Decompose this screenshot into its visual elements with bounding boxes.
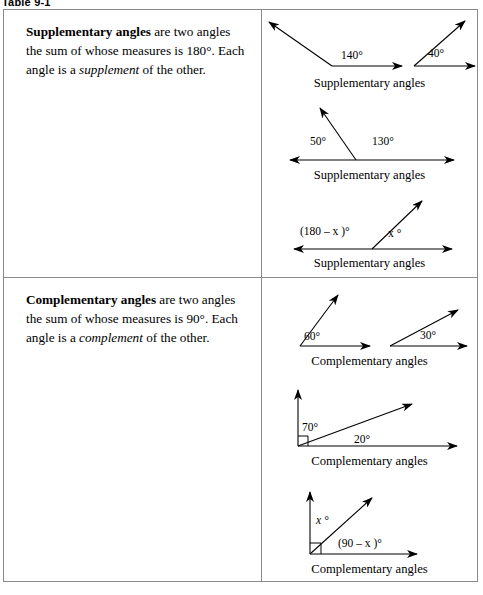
diagram-60-30: 60° 30° xyxy=(262,288,479,354)
caption-supplementary-1: Supplementary angles xyxy=(262,76,477,90)
label-130: 130° xyxy=(372,135,394,147)
figure-complementary-60-30: 60° 30° Complementary angles xyxy=(262,288,477,368)
label-90-minus-x: (90 – x )° xyxy=(338,537,382,550)
complementary-description-text: Complementary angles are two angles the … xyxy=(26,290,245,347)
angles-table: Supplementary angles are two angles the … xyxy=(3,9,478,582)
complementary-emph: complement xyxy=(79,330,143,345)
complementary-tail: of the other. xyxy=(143,330,210,345)
label-140: 140° xyxy=(341,49,363,61)
complementary-term: Complementary angles xyxy=(26,292,156,307)
label-180-minus-x: (180 – x )° xyxy=(300,225,350,238)
label-70: 70° xyxy=(302,421,319,433)
supplementary-description-cell: Supplementary angles are two angles the … xyxy=(4,10,262,277)
caption-complementary-1: Complementary angles xyxy=(262,354,477,368)
label-60: 60° xyxy=(304,330,321,342)
label-x: x ° xyxy=(388,227,402,239)
supplementary-figures-cell: 140° 40° Supplementary angles 50° 130° S… xyxy=(262,10,477,277)
label-30: 30° xyxy=(420,329,437,341)
complementary-description-cell: Complementary angles are two angles the … xyxy=(4,278,262,582)
figure-complementary-x-90x: x ° (90 – x )° Complementary angles xyxy=(262,484,477,576)
table-caption: Table 9-1 xyxy=(2,0,51,8)
figure-supplementary-140-40: 140° 40° Supplementary angles xyxy=(262,12,477,90)
table-row: Supplementary angles are two angles the … xyxy=(4,10,477,278)
label-x: x ° xyxy=(315,514,329,526)
table-row: Complementary angles are two angles the … xyxy=(4,278,477,582)
figure-supplementary-50-130: 50° 130° Supplementary angles xyxy=(262,102,477,182)
diagram-180x-x: (180 – x )° x ° xyxy=(262,194,479,256)
label-40: 40° xyxy=(428,47,445,59)
caption-complementary-3: Complementary angles xyxy=(262,562,477,576)
supplementary-term: Supplementary angles xyxy=(26,24,151,39)
caption-complementary-2: Complementary angles xyxy=(262,454,477,468)
diagram-x-90x: x ° (90 – x )° xyxy=(262,484,479,562)
figure-supplementary-180x-x: (180 – x )° x ° Supplementary angles xyxy=(262,194,477,274)
figure-complementary-70-20: 70° 20° Complementary angles xyxy=(262,382,477,470)
supplementary-description-text: Supplementary angles are two angles the … xyxy=(26,22,245,79)
label-20: 20° xyxy=(354,433,371,445)
diagram-70-20: 70° 20° xyxy=(262,382,479,454)
supplementary-tail: of the other. xyxy=(139,62,206,77)
complementary-figures-cell: 60° 30° Complementary angles 70° 20° xyxy=(262,278,477,582)
supplementary-emph: supplement xyxy=(79,62,139,77)
caption-supplementary-3: Supplementary angles xyxy=(262,256,477,270)
label-50: 50° xyxy=(310,135,327,147)
diagram-140-40: 140° 40° xyxy=(262,12,479,76)
diagram-50-130: 50° 130° xyxy=(262,102,479,168)
caption-supplementary-2: Supplementary angles xyxy=(262,168,477,182)
